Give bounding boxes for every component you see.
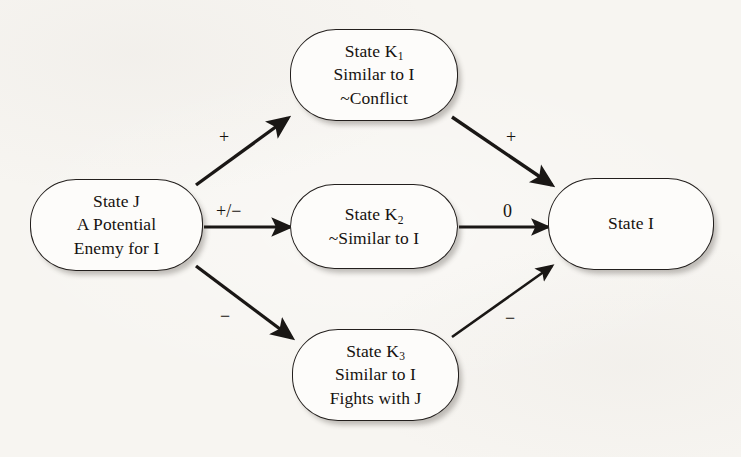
node-state-j-line-2: Enemy for I <box>74 237 160 260</box>
node-state-j-line-0: State J <box>93 190 140 213</box>
node-state-k3-line-2: Fights with J <box>330 387 422 410</box>
edge-j-to-k3 <box>196 266 292 338</box>
node-state-i[interactable]: State I <box>548 178 714 270</box>
edge-label-k1-to-i: + <box>506 128 516 146</box>
node-state-k3-line-1: Similar to I <box>335 363 416 386</box>
diagram-canvas: State J A Potential Enemy for I State K1… <box>0 0 741 457</box>
node-state-k2[interactable]: State K2 ~Similar to I <box>290 184 458 269</box>
node-state-k2-line-0: State K2 <box>345 203 404 226</box>
node-state-k3[interactable]: State K3 Similar to I Fights with J <box>292 329 459 421</box>
node-state-j-line-1: A Potential <box>77 213 156 236</box>
node-state-k1-line-0: State K1 <box>345 40 404 63</box>
node-state-k2-subscript: 2 <box>398 214 404 226</box>
node-state-k1-line-2: ~Conflict <box>340 87 408 110</box>
edge-label-j-to-k3: − <box>220 307 230 325</box>
edge-j-to-k1 <box>196 118 288 185</box>
node-state-k1-subscript: 1 <box>398 50 404 62</box>
node-state-j[interactable]: State J A Potential Enemy for I <box>30 179 203 271</box>
edge-label-k2-to-i: 0 <box>503 202 512 220</box>
edge-label-j-to-k1: + <box>219 128 229 146</box>
node-state-k3-line-0: State K3 <box>346 340 405 363</box>
node-state-k1-line-1: Similar to I <box>334 63 415 86</box>
edge-label-j-to-k2: +/− <box>216 202 241 220</box>
edge-label-k3-to-i: − <box>505 309 515 327</box>
edge-k1-to-i <box>452 117 552 185</box>
node-state-i-line-0: State I <box>608 212 654 235</box>
edge-k3-to-i <box>452 266 552 337</box>
node-state-k2-line-1: ~Similar to I <box>329 227 419 250</box>
node-state-k3-subscript: 3 <box>399 350 405 362</box>
node-state-k1[interactable]: State K1 Similar to I ~Conflict <box>290 29 458 121</box>
